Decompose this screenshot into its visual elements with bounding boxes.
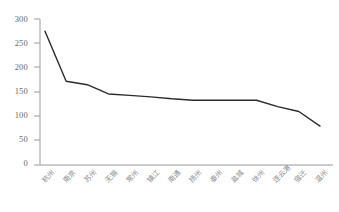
data-series-line [45, 31, 320, 126]
chart-canvas [0, 0, 339, 212]
line-chart: 300 250 200 150 100 50 0 杭州 南京 苏州 无锡 常州 … [0, 0, 339, 212]
y-axis-ticks [34, 19, 40, 165]
